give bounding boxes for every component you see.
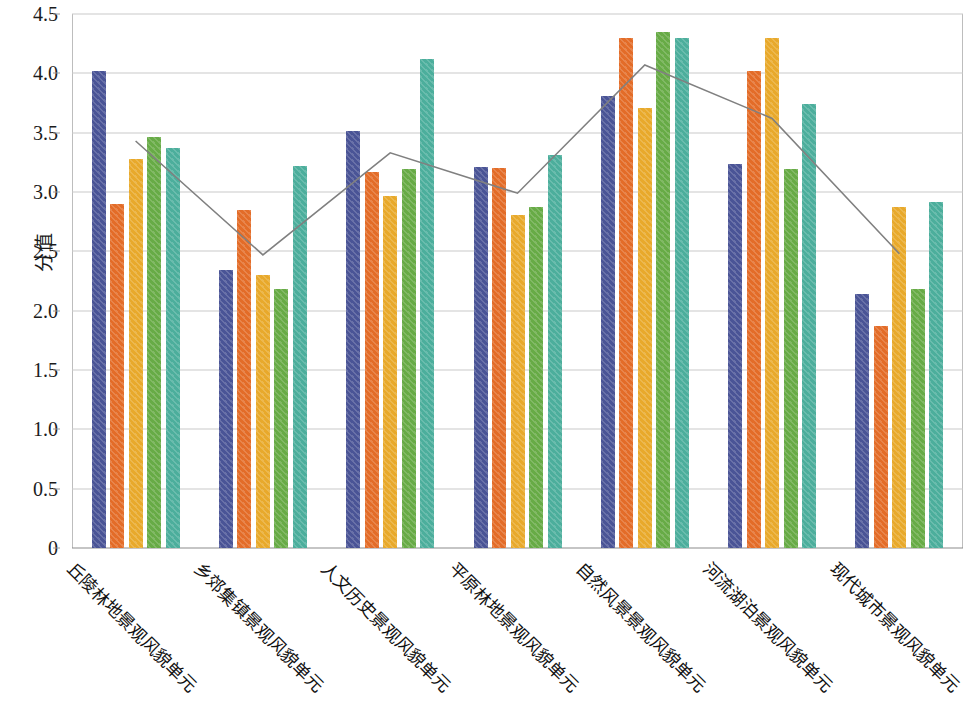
x-tick-label: 自然风景景观风貌单元 — [571, 556, 712, 697]
x-tick-label: 丘陵林地景观风貌单元 — [62, 556, 203, 697]
x-tick-label: 人文历史景观风貌单元 — [317, 556, 458, 697]
x-tick-label: 河流湖泊景观风貌单元 — [698, 556, 839, 697]
x-tick-label: 平原林地景观风貌单元 — [444, 556, 585, 697]
x-tick-label: 乡郊集镇景观风貌单元 — [189, 556, 330, 697]
x-tick-label: 现代城市景观风貌单元 — [826, 556, 967, 697]
chart-container: 分值 4.54.03.53.02.52.01.51.00.50 丘陵林地景观风貌… — [0, 0, 970, 701]
x-axis-tick-labels: 丘陵林地景观风貌单元乡郊集镇景观风貌单元人文历史景观风貌单元平原林地景观风貌单元… — [0, 0, 970, 701]
